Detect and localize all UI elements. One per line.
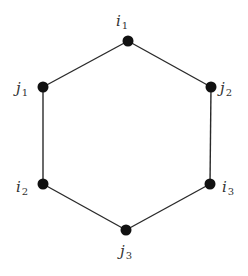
node-j3 — [121, 225, 132, 236]
label-j1: j1 — [13, 79, 28, 98]
node-j1 — [38, 82, 49, 93]
node-i1 — [123, 36, 134, 47]
label-i2: i2 — [16, 178, 28, 197]
label-i1: i1 — [116, 12, 128, 31]
label-j2: j2 — [217, 79, 232, 98]
label-j3: j3 — [117, 242, 132, 261]
edge-i3-j3 — [126, 184, 210, 230]
node-i2 — [38, 179, 49, 190]
hexagon-graph: i1j2i3j3i2j1 — [0, 0, 248, 276]
edge-j3-i2 — [43, 184, 126, 230]
edge-i1-j2 — [128, 41, 211, 87]
edge-j1-i1 — [43, 41, 128, 87]
edge-j2-i3 — [210, 87, 211, 184]
edges — [43, 41, 211, 230]
node-i3 — [205, 179, 216, 190]
nodes — [38, 36, 217, 236]
node-j2 — [206, 82, 217, 93]
labels: i1j2i3j3i2j1 — [13, 12, 234, 261]
label-i3: i3 — [222, 178, 234, 197]
